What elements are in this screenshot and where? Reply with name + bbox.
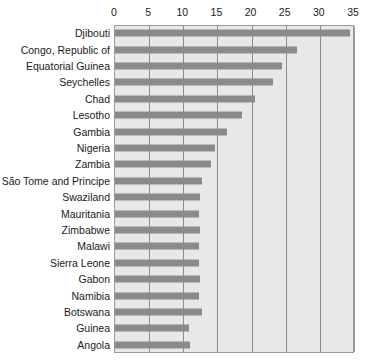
bar [115, 62, 282, 69]
bar [115, 210, 199, 217]
bar-row: Equatorial Guinea [0, 58, 374, 74]
x-tick-label: 25 [279, 6, 291, 19]
x-tick-label: 0 [111, 6, 117, 19]
bar [115, 276, 200, 283]
bar-row: Swaziland [0, 189, 374, 205]
category-label: Guinea [76, 322, 110, 334]
bar-row: Chad [0, 91, 374, 107]
bar [115, 161, 211, 168]
bar-row: Namibia [0, 287, 374, 303]
x-tick-label: 5 [145, 6, 151, 19]
bar-row: Zambia [0, 156, 374, 172]
bar-row: Nigeria [0, 140, 374, 156]
bar-row: Botswana [0, 304, 374, 320]
category-label: Namibia [71, 290, 110, 302]
category-label: Gambia [73, 126, 110, 138]
category-label: São Tome and Principe [2, 175, 110, 187]
x-tick-label: 20 [245, 6, 257, 19]
category-label: Malawi [77, 240, 110, 252]
bar [115, 292, 199, 299]
bar [115, 30, 350, 37]
x-tick-label: 35 [347, 6, 359, 19]
bar [115, 144, 215, 151]
bar [115, 112, 242, 119]
category-label: Sierra Leone [50, 257, 110, 269]
x-axis: 05101520253035 [0, 6, 374, 22]
bar-row: Djibouti [0, 25, 374, 41]
bar-row: Malawi [0, 238, 374, 254]
bar-row: Mauritania [0, 205, 374, 221]
bar-rows: DjiboutiCongo, Republic ofEquatorial Gui… [0, 25, 374, 353]
category-label: Nigeria [77, 142, 110, 154]
bar [115, 243, 199, 250]
bar-row: Gambia [0, 123, 374, 139]
bar [115, 128, 227, 135]
bar-row: Congo, Republic of [0, 41, 374, 57]
bar [115, 46, 297, 53]
category-label: Swaziland [62, 191, 110, 203]
bar [115, 194, 200, 201]
bar [115, 95, 255, 102]
bar-row: Lesotho [0, 107, 374, 123]
category-label: Botswana [64, 306, 110, 318]
category-label: Congo, Republic of [21, 44, 110, 56]
category-label: Zambia [75, 158, 110, 170]
category-label: Zimbabwe [62, 224, 110, 236]
bar [115, 226, 200, 233]
category-label: Angola [77, 339, 110, 351]
category-label: Mauritania [61, 208, 110, 220]
bar-row: Gabon [0, 271, 374, 287]
bar [115, 308, 202, 315]
category-label: Djibouti [75, 27, 110, 39]
bar [115, 79, 273, 86]
bar-row: Seychelles [0, 74, 374, 90]
bar-row: Angola [0, 337, 374, 353]
bar [115, 177, 202, 184]
category-label: Gabon [78, 273, 110, 285]
bar-row: São Tome and Principe [0, 173, 374, 189]
bar-row: Sierra Leone [0, 255, 374, 271]
category-label: Lesotho [73, 109, 110, 121]
bar-chart: 05101520253035 DjiboutiCongo, Republic o… [0, 0, 374, 360]
bar [115, 259, 199, 266]
bar-row: Zimbabwe [0, 222, 374, 238]
x-tick-label: 10 [176, 6, 188, 19]
bar [115, 341, 190, 348]
bar-row: Guinea [0, 320, 374, 336]
x-tick-label: 30 [313, 6, 325, 19]
bar [115, 325, 189, 332]
category-label: Equatorial Guinea [26, 60, 110, 72]
x-tick-label: 15 [211, 6, 223, 19]
category-label: Chad [85, 93, 110, 105]
category-label: Seychelles [59, 76, 110, 88]
